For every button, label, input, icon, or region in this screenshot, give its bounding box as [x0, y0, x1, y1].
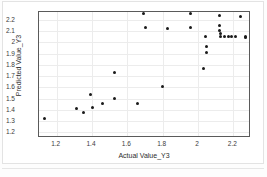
data-point: [142, 12, 145, 15]
x-tick-label: 2.2: [217, 140, 247, 147]
y-tick-label: 1.7: [0, 72, 15, 79]
y-tick-label: 1.9: [0, 49, 15, 56]
data-point: [89, 93, 92, 96]
x-tick-label: 1.4: [76, 140, 106, 147]
data-point: [205, 45, 208, 48]
gridline-y-1.7: [39, 76, 249, 77]
data-point: [218, 24, 221, 27]
data-point: [234, 35, 237, 38]
data-point: [166, 27, 169, 30]
y-tick-label: 1.2: [0, 128, 15, 135]
y-tick-label: 1.4: [0, 105, 15, 112]
gridline-x-1.4: [92, 12, 93, 136]
data-point: [239, 15, 242, 18]
data-point: [101, 102, 104, 105]
x-tick-label: 2: [182, 140, 212, 147]
gridline-x-1.2: [57, 12, 58, 136]
y-axis-label: Predicted Value_Y3: [15, 11, 22, 121]
data-point: [227, 35, 230, 38]
y-tick-label: 1.5: [0, 94, 15, 101]
data-point: [202, 67, 205, 70]
gridline-x-1.8: [163, 12, 164, 136]
y-tick-label: 2.2: [0, 15, 15, 22]
gridline-x-2: [198, 12, 199, 136]
data-point: [189, 26, 192, 29]
gridline-y-2: [39, 42, 249, 43]
y-tick-label: 1.3: [0, 117, 15, 124]
gridline-y-1.3: [39, 121, 249, 122]
plot-area: [38, 11, 250, 137]
y-tick-label: 2: [0, 38, 15, 45]
scatter-plot-figure: 1.21.31.41.51.61.71.81.922.12.2 1.21.41.…: [0, 0, 267, 177]
data-point: [144, 26, 147, 29]
gridline-y-1.5: [39, 99, 249, 100]
gridline-y-1.9: [39, 54, 249, 55]
gridline-y-1.6: [39, 87, 249, 88]
x-axis-label: Actual Value_Y3: [38, 152, 250, 159]
gridline-y-1.2: [39, 132, 249, 133]
card-bottom-divider: [2, 168, 264, 169]
gridline-x-2.2: [233, 12, 234, 136]
x-tick-label: 1.6: [111, 140, 141, 147]
data-point: [204, 35, 207, 38]
data-point: [82, 111, 85, 114]
data-point: [244, 36, 247, 39]
data-point: [223, 35, 226, 38]
data-point: [91, 106, 94, 109]
data-point: [189, 12, 192, 15]
gridline-y-2.2: [39, 20, 249, 21]
data-point: [136, 102, 139, 105]
x-tick-label: 1.8: [147, 140, 177, 147]
data-point: [113, 71, 116, 74]
data-point: [218, 14, 221, 17]
gridline-y-1.4: [39, 110, 249, 111]
y-tick-label: 1.8: [0, 60, 15, 67]
gridline-x-1.6: [127, 12, 128, 136]
data-point: [43, 117, 46, 120]
y-tick-label: 1.6: [0, 83, 15, 90]
data-point: [161, 85, 164, 88]
x-tick-label: 1.2: [41, 140, 71, 147]
y-tick-label: 2.1: [0, 27, 15, 34]
data-point: [75, 107, 78, 110]
gridline-y-1.8: [39, 65, 249, 66]
